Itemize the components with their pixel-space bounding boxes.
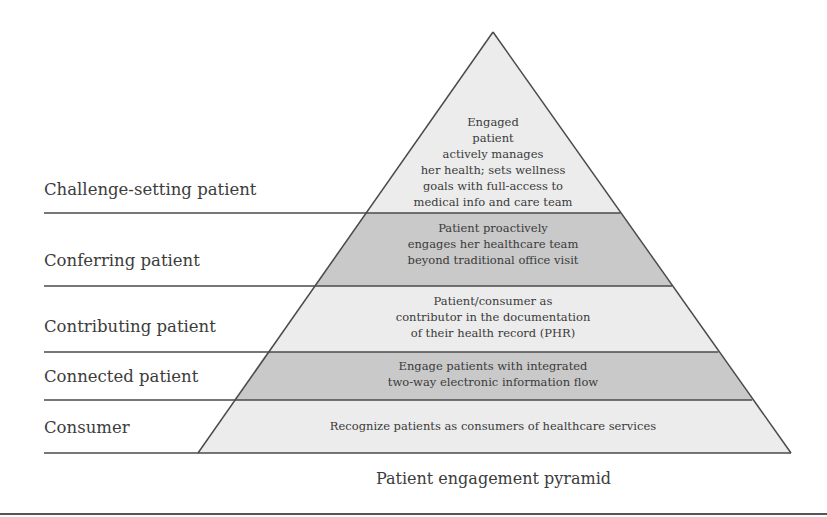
description-line: patient — [393, 130, 593, 146]
description-line: Patient proactively — [368, 220, 618, 236]
description-line: medical info and care team — [393, 194, 593, 210]
description-line: goals with full-access to — [393, 178, 593, 194]
level-label-conferring: Conferring patient — [44, 251, 200, 270]
description-line: two-way electronic information flow — [300, 374, 686, 390]
band-description-contributing: Patient/consumer as contributor in the d… — [328, 293, 658, 341]
description-line: Engaged — [393, 114, 593, 130]
description-line: engages her healthcare team — [368, 236, 618, 252]
description-line: actively manages — [393, 146, 593, 162]
description-line: of their health record (PHR) — [328, 325, 658, 341]
description-line: her health; sets wellness — [393, 162, 593, 178]
band-description-consumer: Recognize patients as consumers of healt… — [250, 418, 736, 434]
band-description-conferring: Patient proactively engages her healthca… — [368, 220, 618, 268]
level-label-contributing: Contributing patient — [44, 317, 216, 336]
level-label-challenge-setting: Challenge-setting patient — [44, 180, 256, 199]
band-description-challenge-setting: Engaged patient actively manages her hea… — [393, 114, 593, 210]
description-line: contributor in the documentation — [328, 309, 658, 325]
description-line: Recognize patients as consumers of healt… — [250, 418, 736, 434]
band-description-connected: Engage patients with integrated two-way … — [300, 358, 686, 390]
diagram-caption: Patient engagement pyramid — [0, 469, 827, 488]
description-line: Engage patients with integrated — [300, 358, 686, 374]
level-label-connected: Connected patient — [44, 367, 198, 386]
description-line: Patient/consumer as — [328, 293, 658, 309]
level-label-consumer: Consumer — [44, 418, 130, 437]
description-line: beyond traditional office visit — [368, 252, 618, 268]
